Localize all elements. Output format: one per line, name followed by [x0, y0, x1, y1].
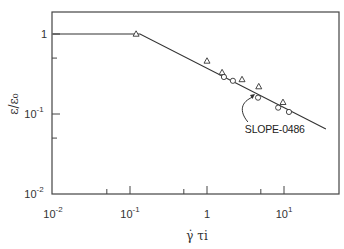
annotation-arrow	[242, 97, 253, 122]
x-axis-title: γ̇ τi	[186, 229, 208, 243]
triangle-marker-icon	[219, 69, 225, 74]
data-markers	[133, 31, 291, 115]
y-axis-title: ε/ε₀	[7, 93, 21, 114]
triangle-marker-icon	[204, 58, 210, 63]
circle-marker-icon	[230, 78, 235, 83]
x-tick-label: 101	[276, 205, 293, 220]
x-axis-tick-labels: 10-210-11101	[43, 205, 293, 220]
triangle-marker-icon	[280, 99, 286, 104]
x-tick-label: 10-2	[43, 205, 63, 220]
x-tick-label: 1	[204, 208, 210, 220]
circle-marker-icon	[221, 74, 226, 79]
slope-annotation-text: SLOPE-0486	[245, 123, 305, 135]
circle-marker-icon	[255, 95, 260, 100]
y-tick-label: 10-2	[24, 185, 44, 200]
slope-annotation: SLOPE-0486	[242, 94, 305, 135]
x-axis-ticks	[107, 186, 284, 194]
circle-marker-icon	[286, 109, 291, 114]
plot-frame	[52, 12, 339, 194]
chart: 10-210-11101 110-110-2 SLOPE-0486 γ̇ τi …	[0, 0, 344, 249]
y-axis-ticks	[52, 34, 60, 138]
x-tick-label: 10-1	[120, 205, 140, 220]
plot-border	[52, 12, 339, 194]
triangle-marker-icon	[256, 83, 262, 88]
y-tick-label: 1	[41, 28, 47, 40]
fit-line	[53, 34, 326, 129]
fit-line-path	[53, 34, 326, 129]
triangle-marker-icon	[239, 76, 245, 81]
circle-marker-icon	[276, 105, 281, 110]
y-tick-label: 10-1	[24, 105, 44, 120]
y-axis-tick-labels: 110-110-2	[24, 28, 47, 200]
